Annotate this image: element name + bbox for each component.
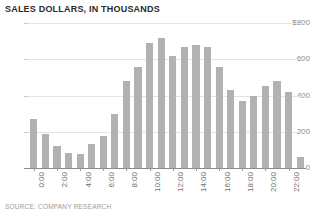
bar — [181, 47, 188, 168]
x-axis-tick-label: 10:00 — [153, 172, 162, 192]
bar — [53, 146, 60, 168]
bar — [30, 119, 37, 168]
x-axis-tick-label: 22:00 — [292, 172, 301, 192]
bar — [134, 67, 141, 169]
x-axis-tick-mark — [289, 168, 290, 171]
bar — [77, 154, 84, 168]
x-axis-tick-mark — [103, 168, 104, 171]
bars-layer — [28, 23, 306, 168]
x-axis-tick-label: 12:00 — [176, 172, 185, 192]
bar — [250, 96, 257, 169]
x-axis-tick-label: 20:00 — [269, 172, 278, 192]
x-axis-tick-label: 4:00 — [84, 172, 93, 188]
bar — [42, 134, 49, 168]
x-axis-tick-mark — [219, 168, 220, 171]
bar — [273, 81, 280, 168]
x-axis-tick-label: 18:00 — [246, 172, 255, 192]
bar — [227, 90, 234, 168]
x-axis-tick-label: 14:00 — [199, 172, 208, 192]
bar — [285, 92, 292, 168]
x-axis-tick-mark — [57, 168, 58, 171]
bar — [169, 56, 176, 168]
x-axis-tick-mark — [173, 168, 174, 171]
bar — [192, 45, 199, 168]
x-axis-tick-mark — [196, 168, 197, 171]
bar — [100, 136, 107, 168]
x-axis-tick-mark — [34, 168, 35, 171]
bar — [146, 43, 153, 168]
bar — [65, 153, 72, 168]
sales-dollars-bar-chart: SALES DOLLARS, IN THOUSANDS $80060040020… — [0, 0, 310, 217]
x-axis-tick-mark — [80, 168, 81, 171]
x-axis-tick-mark — [126, 168, 127, 171]
bar — [204, 47, 211, 168]
bar — [158, 38, 165, 169]
x-axis-tick-label: 0:00 — [37, 172, 46, 188]
x-axis-tick-mark — [150, 168, 151, 171]
bar — [262, 86, 269, 168]
x-axis-tick-mark — [265, 168, 266, 171]
bar — [123, 81, 130, 168]
x-axis-tick-label: 6:00 — [107, 172, 116, 188]
source-note: SOURCE: COMPANY RESEARCH — [5, 203, 111, 210]
bar — [111, 114, 118, 168]
x-axis-tick-label: 2:00 — [60, 172, 69, 188]
x-axis-tick-label: 8:00 — [130, 172, 139, 188]
bar — [297, 157, 304, 168]
x-axis-tick-mark — [242, 168, 243, 171]
plot-area — [28, 23, 306, 168]
chart-title: SALES DOLLARS, IN THOUSANDS — [5, 4, 160, 14]
bar — [216, 67, 223, 169]
bar — [88, 144, 95, 168]
x-axis-line — [24, 168, 306, 169]
bar — [239, 101, 246, 168]
x-axis-tick-label: 16:00 — [223, 172, 232, 192]
